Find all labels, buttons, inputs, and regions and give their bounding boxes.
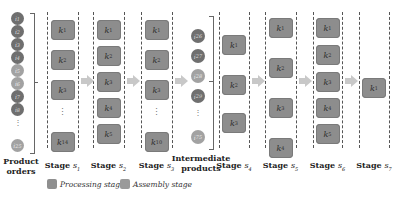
bracket (209, 16, 214, 150)
stage-boundary-right (296, 12, 297, 148)
machine-box: k1 (145, 20, 169, 40)
machine-box: k1 (269, 18, 293, 38)
product-order-circle: i3 (11, 38, 24, 51)
machine-box: k5 (97, 124, 121, 144)
product-order-circle: i8 (11, 103, 24, 116)
machine-box: k1 (316, 18, 340, 38)
stage-boundary-right (78, 12, 79, 148)
stage-boundary-right (342, 12, 343, 148)
stage-boundary-left (359, 12, 360, 148)
intermediate-product-circle: i75 (191, 130, 205, 144)
machine-box: k2 (97, 46, 121, 66)
machine-box: k2 (222, 75, 246, 95)
assembly-stage-label: Assembly stage (133, 180, 192, 189)
stage-boundary-right (124, 12, 125, 148)
machine-box: k2 (316, 45, 340, 65)
machine-box: k2 (51, 50, 75, 70)
machine-box: k4 (97, 98, 121, 118)
stage-boundary-right (389, 12, 390, 148)
machine-box: k3 (222, 113, 246, 133)
machine-box: k1 (51, 20, 75, 40)
machine-box: k3 (269, 98, 293, 118)
ellipsis-icon: ⋮ (11, 121, 24, 125)
product-order-circle: i25 (11, 139, 24, 152)
machine-box: k4 (269, 138, 293, 158)
stage-boundary-left (313, 12, 314, 148)
stage-boundary-left (219, 12, 220, 148)
product-order-circle: i1 (11, 12, 24, 25)
stage-label: Stage s1 (41, 160, 84, 174)
product-order-circle: i2 (11, 25, 24, 38)
stage-boundary-left (265, 12, 266, 148)
processing-stage-swatch (47, 179, 57, 189)
product-order-circle: i4 (11, 51, 24, 64)
bracket (30, 13, 35, 154)
machine-box: k5 (316, 124, 340, 144)
stage-label: Stage s7 (353, 160, 395, 174)
machine-box: k14 (51, 132, 75, 152)
machine-box: k4 (316, 98, 340, 118)
machine-box: k3 (51, 80, 75, 100)
machine-box: k1 (362, 78, 386, 98)
bracket-tick (209, 81, 213, 82)
stage-label: Stage s2 (87, 160, 130, 174)
machine-box: k1 (97, 20, 121, 40)
intermediate-product-circle: i27 (191, 49, 205, 63)
product-order-circle: i6 (11, 77, 24, 90)
stage-label: Stage s3 (135, 160, 178, 174)
machine-box: k10 (145, 132, 169, 152)
stage-label: Stage s6 (307, 160, 348, 174)
stage-label: Stage s4 (213, 160, 255, 174)
stage-boundary-left (47, 12, 48, 148)
product-order-circle: i7 (11, 90, 24, 103)
bracket-tick (34, 82, 38, 83)
ellipsis-icon: ⋮ (191, 111, 204, 115)
ellipsis-icon: ⋮ (51, 110, 75, 114)
ellipsis-icon: ⋮ (145, 110, 169, 114)
machine-box: k2 (269, 58, 293, 78)
intermediate-product-circle: i26 (191, 29, 205, 43)
machine-box: k3 (145, 80, 169, 100)
product-order-circle: i5 (11, 64, 24, 77)
machine-box: k3 (316, 72, 340, 92)
stage-boundary-left (141, 12, 142, 148)
intermediate-product-circle: i28 (191, 69, 205, 83)
assembly-stage-swatch (120, 179, 130, 189)
product-orders-label: Productorders (0, 156, 42, 176)
stage-boundary-right (172, 12, 173, 148)
machine-box: k1 (222, 35, 246, 55)
intermediate-product-circle: i29 (191, 89, 205, 103)
stage-label: Stage s5 (259, 160, 302, 174)
processing-stage-label: Processing stage (60, 180, 124, 189)
machine-box: k3 (97, 72, 121, 92)
machine-box: k2 (145, 50, 169, 70)
stage-boundary-right (249, 12, 250, 148)
